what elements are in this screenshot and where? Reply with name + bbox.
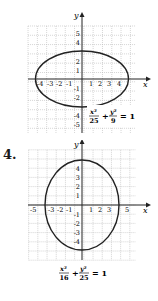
equation-2: x² 16 + y² 25 = 1 [59, 265, 107, 282]
x-tick: -1 [66, 80, 72, 88]
eq-x-num: x² [89, 108, 97, 116]
eq-plus: + [102, 111, 109, 121]
y-tick: 3 [76, 174, 80, 182]
y-tick: 4 [76, 39, 80, 47]
x-tick: -3 [47, 80, 53, 88]
eq-x-den: 25 [90, 117, 100, 125]
x-tick: 2 [98, 206, 102, 214]
eq-x-num: x² [59, 265, 67, 273]
eq-y-num: y² [109, 108, 117, 116]
ellipse-graph-2: 4. y x -5 -3 -2 -1 1 2 3 5 4 3 2 1 -1 -2… [0, 140, 158, 301]
y-tick: 2 [76, 183, 80, 191]
y-axis-arrow-icon [80, 140, 85, 144]
eq-rhs: = 1 [120, 111, 135, 121]
y-tick: -4 [74, 238, 80, 246]
x-tick: -2 [57, 206, 63, 214]
x-tick: 2 [98, 80, 102, 88]
eq-y-num: y² [79, 265, 87, 273]
x-tick: 5 [125, 206, 129, 214]
ellipse-plot-1: y x -4 -3 -2 -1 1 2 3 4 5 4 2 1 -1 -2 -4… [0, 0, 158, 145]
y-axis-label: y [73, 11, 79, 20]
ellipse-graph-1: y x -4 -3 -2 -1 1 2 3 4 5 4 2 1 -1 -2 -4… [0, 0, 158, 145]
eq-x-den: 16 [60, 274, 70, 282]
y-tick: 1 [76, 67, 80, 75]
y-tick: -2 [74, 94, 80, 102]
ellipse-plot-2: y x -5 -3 -2 -1 1 2 3 5 4 3 2 1 -1 -2 -3… [0, 140, 158, 301]
x-tick: 3 [107, 206, 111, 214]
x-axis-label: x [143, 80, 148, 89]
x-tick: 4 [117, 80, 121, 88]
x-tick: -1 [66, 206, 72, 214]
eq-plus: + [72, 268, 79, 278]
y-axis-label: y [73, 140, 79, 149]
x-tick: -5 [30, 206, 36, 214]
y-tick: 5 [76, 30, 80, 38]
y-tick: -1 [74, 85, 80, 93]
x-tick: 3 [107, 80, 111, 88]
eq-y-den: 9 [111, 117, 116, 125]
x-tick: -4 [37, 80, 43, 88]
y-tick: -4 [74, 112, 80, 120]
y-tick: 1 [76, 192, 80, 200]
eq-rhs: = 1 [92, 268, 107, 278]
x-tick: 1 [89, 206, 93, 214]
problem-number: 4. [3, 147, 17, 162]
y-tick: -1 [74, 211, 80, 219]
y-tick: 2 [76, 58, 80, 66]
y-tick: -2 [74, 220, 80, 228]
x-tick: 1 [89, 80, 93, 88]
equation-1: x² 25 + y² 9 = 1 [87, 105, 139, 127]
y-tick: -3 [74, 229, 80, 237]
y-axis-arrow-icon [80, 12, 85, 17]
x-tick: -2 [56, 80, 62, 88]
x-tick: -3 [48, 206, 54, 214]
y-tick: 4 [76, 165, 80, 173]
y-tick: -5 [74, 121, 80, 129]
x-axis-label: x [143, 206, 148, 215]
eq-y-den: 25 [80, 274, 90, 282]
